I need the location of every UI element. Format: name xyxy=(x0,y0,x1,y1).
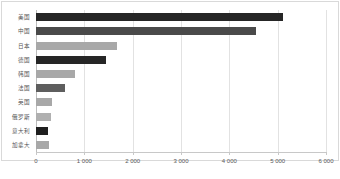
bar-fill xyxy=(36,98,52,106)
x-tick-label: 5 000 xyxy=(270,156,285,166)
x-tick-label: 6 000 xyxy=(318,156,333,166)
x-tick-label: 3 000 xyxy=(173,156,188,166)
bar-fill xyxy=(36,84,65,92)
bar xyxy=(36,141,49,149)
x-tick-label: 1 000 xyxy=(77,156,92,166)
x-tick-label: 4 000 xyxy=(222,156,237,166)
category-label: 美国 xyxy=(18,13,30,21)
bar xyxy=(36,127,48,135)
tick-mark-3000 xyxy=(181,152,182,155)
bar-fill xyxy=(36,27,256,35)
bar xyxy=(36,13,283,21)
bar xyxy=(36,70,75,78)
bar xyxy=(36,56,106,64)
bar-fill xyxy=(36,141,49,149)
category-label: 韩国 xyxy=(18,70,30,78)
category-label: 意大利 xyxy=(12,127,30,135)
bar-fill xyxy=(36,127,48,135)
bar xyxy=(36,42,117,50)
tick-mark-2000 xyxy=(133,152,134,155)
gridline-6000 xyxy=(326,10,327,152)
category-label: 加拿大 xyxy=(12,141,30,149)
category-axis-labels: 美国中国日本德国韩国法国英国俄罗斯意大利加拿大 xyxy=(0,10,33,152)
tick-mark-6000 xyxy=(326,152,327,155)
category-label: 中国 xyxy=(18,27,30,35)
bar-series xyxy=(36,10,326,152)
bar xyxy=(36,84,65,92)
bar xyxy=(36,113,51,121)
x-axis-tick-labels: 01 0002 0003 0004 0005 0006 000 xyxy=(0,156,340,174)
x-tick-label: 0 xyxy=(34,156,37,166)
bar-fill xyxy=(36,56,106,64)
bar-fill xyxy=(36,42,117,50)
category-label: 日本 xyxy=(18,42,30,50)
tick-mark-4000 xyxy=(229,152,230,155)
bar xyxy=(36,27,256,35)
x-tick-label: 2 000 xyxy=(125,156,140,166)
bar-fill xyxy=(36,113,51,121)
bar-fill xyxy=(36,13,283,21)
bar-chart: 美国中国日本德国韩国法国英国俄罗斯意大利加拿大 01 0002 0003 000… xyxy=(0,0,340,179)
category-label: 德国 xyxy=(18,56,30,64)
tick-mark-0 xyxy=(36,152,37,155)
bar xyxy=(36,98,52,106)
category-label: 法国 xyxy=(18,84,30,92)
category-label: 英国 xyxy=(18,98,30,106)
plot-area xyxy=(36,10,326,152)
category-label: 俄罗斯 xyxy=(12,113,30,121)
tick-mark-5000 xyxy=(278,152,279,155)
tick-mark-1000 xyxy=(84,152,85,155)
bar-fill xyxy=(36,70,75,78)
